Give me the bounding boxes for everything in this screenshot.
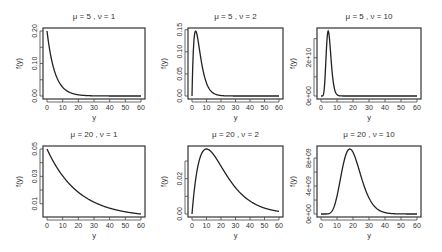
x-tick-label: 50 [397,104,405,111]
x-tick-label: 40 [381,104,389,111]
x-tick-label: 40 [246,222,254,229]
x-tick-label: 0 [190,222,194,229]
plot-frame [188,146,283,217]
x-axis-label: y [234,231,238,240]
x-tick-label: 60 [413,222,421,229]
y-tick-label: 0.01 [31,197,38,211]
density-curve [192,31,279,96]
x-tick-label: 20 [217,104,225,111]
y-axis-label: f(y) [288,58,297,69]
y-axis-label: f(y) [159,176,168,187]
x-tick-label: 10 [59,222,67,229]
plot-frame [317,28,421,99]
y-tick-label: 0.00 [176,89,183,103]
x-tick-label: 10 [203,222,211,229]
x-axis-label: y [92,231,96,240]
panel-3: μ = 5 , ν = 100102030405060y0e+002e+10f(… [288,12,421,122]
panel-2: μ = 5 , ν = 20102030405060y0.000.050.100… [159,12,283,122]
panel-4: μ = 20 , ν = 10102030405060y0.010.030.05… [14,130,145,240]
x-tick-label: 40 [246,104,254,111]
density-curve [321,149,417,214]
x-tick-label: 30 [90,222,98,229]
x-tick-label: 10 [333,104,341,111]
y-axis-label: f(y) [159,58,168,69]
x-tick-label: 30 [232,104,240,111]
x-tick-label: 40 [106,222,114,229]
x-tick-label: 10 [203,104,211,111]
x-tick-label: 20 [349,222,357,229]
y-tick-label: 2e+10 [305,48,312,68]
x-tick-label: 0 [319,222,323,229]
y-tick-label: 0.20 [31,24,38,38]
y-tick-label: 0.00 [176,207,183,221]
x-tick-label: 60 [137,104,145,111]
x-tick-label: 0 [319,104,323,111]
x-tick-label: 10 [59,104,67,111]
panel-1: μ = 5 , ν = 10102030405060y0.000.100.20f… [14,12,145,122]
x-tick-label: 20 [74,104,82,111]
x-tick-label: 0 [190,104,194,111]
x-tick-label: 0 [45,104,49,111]
y-tick-label: 0e+00 [305,204,312,224]
y-tick-label: 0.10 [31,57,38,71]
panel-6: μ = 20 , ν = 100102030405060y0e+004e+098… [288,130,421,240]
x-tick-label: 50 [397,222,405,229]
panel-title: μ = 5 , ν = 2 [214,12,257,21]
density-curve [321,31,417,96]
panel-title: μ = 5 , ν = 10 [346,12,393,21]
x-axis-label: y [234,113,238,122]
density-curve [47,31,141,96]
plot-frame [43,28,145,99]
y-tick-label: 0.15 [176,23,183,37]
x-tick-label: 60 [275,222,283,229]
x-tick-label: 20 [349,104,357,111]
y-tick-label: 0.05 [31,142,38,156]
x-tick-label: 50 [261,222,269,229]
y-tick-label: 0.10 [176,45,183,59]
y-axis-label: f(y) [14,58,23,69]
panel-title: μ = 20 , ν = 10 [343,130,395,139]
density-curve [192,149,279,214]
x-tick-label: 30 [90,104,98,111]
panel-title: μ = 5 , ν = 1 [73,12,116,21]
x-tick-label: 60 [137,222,145,229]
x-tick-label: 50 [121,104,129,111]
x-tick-label: 20 [74,222,82,229]
x-tick-label: 20 [217,222,225,229]
panel-title: μ = 20 , ν = 1 [71,130,118,139]
x-tick-label: 60 [413,104,421,111]
x-tick-label: 30 [232,222,240,229]
y-tick-label: 0.00 [31,89,38,103]
panel-5: μ = 20 , ν = 20102030405060y0.000.02f(y) [159,130,283,240]
y-tick-label: 4e+09 [305,176,312,196]
plot-frame [43,146,145,217]
plot-frame [317,146,421,217]
x-tick-label: 10 [333,222,341,229]
y-axis-label: f(y) [288,176,297,187]
y-tick-label: 0e+00 [305,86,312,106]
x-axis-label: y [367,231,371,240]
x-axis-label: y [92,113,96,122]
x-tick-label: 50 [261,104,269,111]
x-tick-label: 30 [365,104,373,111]
x-tick-label: 0 [45,222,49,229]
y-tick-label: 0.03 [31,169,38,183]
density-plot-grid: μ = 5 , ν = 10102030405060y0.000.100.20f… [0,0,442,252]
y-tick-label: 8e+09 [305,148,312,168]
y-tick-label: 0.02 [176,172,183,186]
x-tick-label: 40 [381,222,389,229]
density-curve [47,149,141,214]
x-tick-label: 60 [275,104,283,111]
panel-title: μ = 20 , ν = 2 [212,130,259,139]
x-tick-label: 50 [121,222,129,229]
x-tick-label: 30 [365,222,373,229]
y-tick-label: 0.05 [176,67,183,81]
x-axis-label: y [367,113,371,122]
y-axis-label: f(y) [14,176,23,187]
x-tick-label: 40 [106,104,114,111]
